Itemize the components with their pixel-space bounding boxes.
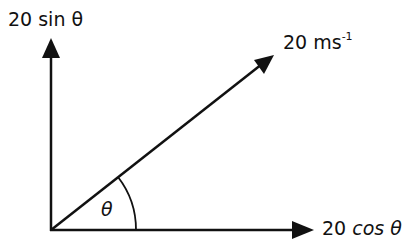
horizontal-component-number: 20 (322, 217, 346, 239)
resultant-label: 20 ms-1 (283, 33, 353, 52)
resultant-vector-line (51, 64, 262, 230)
resultant-exponent: -1 (342, 30, 353, 43)
vertical-component-label: 20 sin θ (8, 10, 83, 29)
resultant-arrowhead-icon (254, 55, 274, 74)
vertical-arrowhead-icon (42, 38, 60, 58)
angle-arc (118, 177, 136, 230)
resultant-value: 20 ms (283, 31, 342, 53)
horizontal-component-function: cos θ (352, 217, 402, 239)
horizontal-component-label: 20 cos θ (322, 219, 402, 238)
horizontal-arrowhead-icon (292, 221, 314, 239)
vector-diagram (0, 0, 419, 245)
angle-label: θ (101, 200, 113, 219)
